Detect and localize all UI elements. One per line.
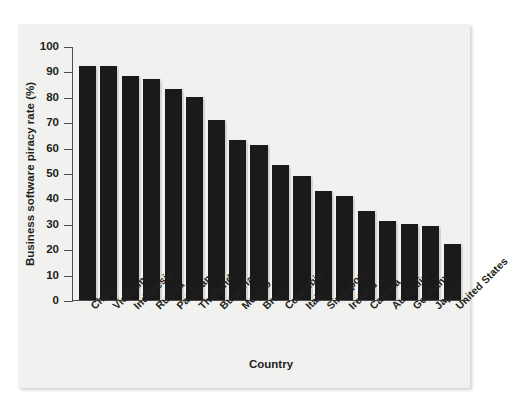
y-axis-tick-label: 80 (46, 91, 59, 103)
bar (100, 66, 117, 300)
bar (186, 97, 203, 300)
y-axis-tick-label: 10 (46, 269, 59, 281)
y-axis-tick-label: 70 (46, 116, 59, 128)
y-axis-tick: 70 (64, 123, 73, 124)
y-axis-tick-label: 20 (46, 243, 59, 255)
bar (250, 145, 267, 300)
y-axis-tick: 90 (64, 72, 73, 73)
y-axis-tick: 10 (64, 276, 73, 277)
y-axis-tick: 50 (64, 174, 73, 175)
y-axis-title: Business software piracy rate (%) (24, 47, 40, 301)
plot-area: 0102030405060708090100 (73, 47, 470, 300)
bar (79, 66, 96, 300)
y-axis-tick-label: 0 (53, 294, 59, 306)
y-axis-tick-label: 40 (46, 192, 59, 204)
plot-frame: 0102030405060708090100 (72, 47, 470, 301)
figure-card: Business software piracy rate (%) 010203… (18, 24, 470, 388)
bar (122, 76, 139, 300)
y-axis-tick: 20 (64, 250, 73, 251)
y-axis-tick-label: 60 (46, 142, 59, 154)
y-axis-tick-label: 50 (46, 167, 59, 179)
bar (143, 79, 160, 300)
y-axis-tick: 30 (64, 225, 73, 226)
y-axis-tick-label: 100 (40, 40, 59, 52)
y-axis-tick: 80 (64, 98, 73, 99)
y-axis-tick: 40 (64, 199, 73, 200)
y-axis-tick: 100 (64, 47, 73, 48)
y-axis-tick: 60 (64, 149, 73, 150)
y-axis-tick-label: 90 (46, 65, 59, 77)
y-axis-tick-label: 30 (46, 218, 59, 230)
bar (208, 120, 225, 300)
bar (272, 165, 289, 300)
y-axis-tick: 0 (64, 301, 73, 302)
x-axis-title: Country (72, 358, 470, 370)
